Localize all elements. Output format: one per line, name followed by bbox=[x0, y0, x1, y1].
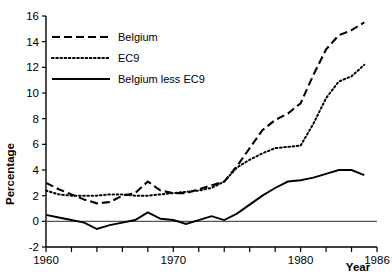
y-tick-label: 12 bbox=[26, 61, 39, 73]
x-tick-label: 1970 bbox=[161, 254, 187, 266]
y-tick-label: 16 bbox=[26, 10, 39, 22]
y-tick-label: 8 bbox=[33, 113, 39, 125]
series-line-belgium-less-ec9 bbox=[46, 170, 364, 229]
y-tick-label: 14 bbox=[26, 36, 39, 48]
y-tick-label: 2 bbox=[33, 190, 39, 202]
chart-legend: BelgiumEC9Belgium less EC9 bbox=[52, 31, 205, 85]
y-tick-label: 6 bbox=[33, 138, 39, 150]
x-axis-title: Year bbox=[346, 261, 371, 273]
y-axis-title: Percentage bbox=[4, 143, 16, 205]
x-axis-tick-marks bbox=[46, 247, 377, 252]
x-tick-label: 1960 bbox=[33, 254, 59, 266]
y-tick-label: 4 bbox=[33, 164, 40, 176]
y-tick-label: 10 bbox=[26, 87, 39, 99]
chart-figure: -20246810121416 1960197019801986 Percent… bbox=[0, 0, 392, 278]
x-axis-tick-labels: 1960197019801986 bbox=[33, 254, 390, 266]
legend-label: EC9 bbox=[118, 52, 139, 64]
legend-label: Belgium bbox=[118, 31, 158, 43]
y-tick-label: -2 bbox=[29, 241, 39, 253]
y-axis-tick-labels: -20246810121416 bbox=[26, 10, 39, 253]
x-tick-label: 1980 bbox=[288, 254, 314, 266]
legend-label: Belgium less EC9 bbox=[118, 73, 205, 85]
y-tick-label: 0 bbox=[33, 215, 39, 227]
line-chart-svg: -20246810121416 1960197019801986 Percent… bbox=[0, 0, 392, 278]
data-series-group bbox=[46, 22, 364, 229]
